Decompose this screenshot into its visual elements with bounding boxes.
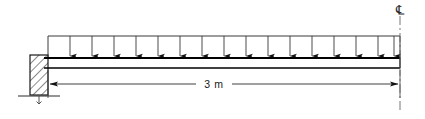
centerline-symbol-icon: ℄ (395, 2, 405, 17)
diagram-background (0, 0, 425, 119)
beam-diagram-svg: 3 m ℄ (0, 0, 425, 119)
dimension-label: 3 m (204, 78, 223, 90)
support-hatch-fill (30, 55, 48, 95)
beam-diagram-canvas: 3 m ℄ (0, 0, 425, 119)
